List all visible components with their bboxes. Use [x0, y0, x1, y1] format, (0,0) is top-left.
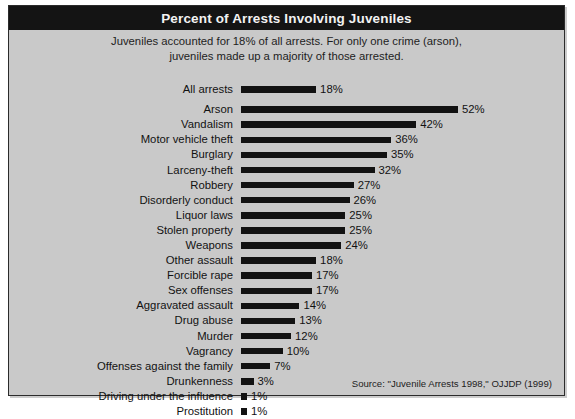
bar — [241, 303, 299, 310]
bar-track: 27% — [241, 178, 564, 193]
bar-row: Burglary35% — [9, 147, 564, 162]
bar-value-label: 18% — [320, 254, 343, 267]
bar — [241, 137, 391, 144]
bar-track: 18% — [241, 253, 564, 268]
bar-category-label: Liquor laws — [9, 209, 241, 222]
bar-category-label: Vagrancy — [9, 345, 241, 358]
bar-track: 1% — [241, 389, 564, 404]
bar-track: 42% — [241, 117, 564, 132]
bar-category-label: Disorderly conduct — [9, 194, 241, 207]
bar-row: Other assault18% — [9, 253, 564, 268]
bar — [241, 212, 345, 219]
bar-value-label: 1% — [251, 405, 267, 418]
bar-value-label: 25% — [349, 209, 372, 222]
bar-track: 17% — [241, 268, 564, 283]
bar-value-label: 10% — [287, 345, 310, 358]
bar-category-label: Robbery — [9, 179, 241, 192]
bar — [241, 333, 291, 340]
bar — [241, 257, 316, 264]
bar-value-label: 13% — [299, 314, 322, 327]
bar — [241, 167, 375, 174]
bar-value-label: 24% — [345, 239, 368, 252]
bar-chart-plot: All arrests18%Arson52%Vandalism42%Motor … — [9, 82, 564, 419]
bar-track: 10% — [241, 344, 564, 359]
bar-value-label: 35% — [391, 148, 414, 161]
bar — [241, 408, 247, 415]
bar-value-label: 7% — [274, 360, 290, 373]
bar-track: 25% — [241, 208, 564, 223]
bar-category-label: All arrests — [9, 83, 241, 96]
bar-row: Robbery27% — [9, 178, 564, 193]
bar-track: 12% — [241, 329, 564, 344]
chart-subtitle-line-1: Juveniles accounted for 18% of all arres… — [9, 34, 564, 49]
bar — [241, 288, 312, 295]
bar-category-label: Larceny-theft — [9, 164, 241, 177]
bar-category-label: Weapons — [9, 239, 241, 252]
bar — [241, 378, 254, 385]
bar-category-label: Other assault — [9, 254, 241, 267]
bar-category-label: Prostitution — [9, 405, 241, 418]
bar-value-label: 52% — [462, 103, 485, 116]
bar-value-label: 3% — [258, 375, 274, 388]
bar-row: Larceny-theft32% — [9, 162, 564, 177]
bar — [241, 182, 354, 189]
bar-row: Motor vehicle theft36% — [9, 132, 564, 147]
bar-track: 17% — [241, 283, 564, 298]
bar — [241, 363, 270, 370]
bar-category-label: Aggravated assault — [9, 299, 241, 312]
bar-track: 18% — [241, 82, 564, 97]
chart-subtitle: Juveniles accounted for 18% of all arres… — [9, 34, 564, 64]
bar-track: 32% — [241, 162, 564, 177]
bar-category-label: Vandalism — [9, 118, 241, 131]
bar-value-label: 18% — [320, 83, 343, 96]
bar-track: 7% — [241, 359, 564, 374]
bar-category-label: Drunkenness — [9, 375, 241, 388]
bar-track: 52% — [241, 102, 564, 117]
bar — [241, 86, 316, 93]
bar-row: Arson52% — [9, 102, 564, 117]
bar-row: Driving under the influence1% — [9, 389, 564, 404]
bar-category-label: Forcible rape — [9, 269, 241, 282]
bar-row: Drug abuse13% — [9, 313, 564, 328]
page-title: Percent of Arrests Involving Juveniles — [161, 11, 412, 26]
bar-category-label: Stolen property — [9, 224, 241, 237]
chart-title-bar: Percent of Arrests Involving Juveniles — [9, 6, 564, 30]
bar — [241, 152, 387, 159]
bar-value-label: 14% — [303, 299, 326, 312]
bar-category-label: Driving under the influence — [9, 390, 241, 403]
bar-track: 35% — [241, 147, 564, 162]
bar-row: Aggravated assault14% — [9, 298, 564, 313]
bar-row: Prostitution1% — [9, 404, 564, 419]
bar-value-label: 27% — [358, 179, 381, 192]
bar — [241, 393, 247, 400]
bar-track: 25% — [241, 223, 564, 238]
bar-value-label: 26% — [354, 194, 377, 207]
bar-value-label: 42% — [420, 118, 443, 131]
bar-row: Forcible rape17% — [9, 268, 564, 283]
bar — [241, 121, 416, 128]
bar-track: 26% — [241, 193, 564, 208]
bar-track: 24% — [241, 238, 564, 253]
bar-category-label: Murder — [9, 330, 241, 343]
bar-row: Sex offenses17% — [9, 283, 564, 298]
bar-track: 1% — [241, 404, 564, 419]
bar-track: 13% — [241, 313, 564, 328]
bar-row: Disorderly conduct26% — [9, 193, 564, 208]
bar-track: 36% — [241, 132, 564, 147]
bar-category-label: Sex offenses — [9, 284, 241, 297]
bar-value-label: 32% — [379, 164, 402, 177]
bar-row: Weapons24% — [9, 238, 564, 253]
bar-row: All arrests18% — [9, 82, 564, 97]
chart-panel: Percent of Arrests Involving Juveniles J… — [8, 5, 565, 396]
bar-value-label: 25% — [349, 224, 372, 237]
bar-value-label: 36% — [395, 133, 418, 146]
bar-category-label: Drug abuse — [9, 314, 241, 327]
bar — [241, 242, 341, 249]
bar-value-label: 1% — [251, 390, 267, 403]
chart-source-note: Source: "Juvenile Arrests 1998," OJJDP (… — [352, 378, 552, 389]
bar-row: Murder12% — [9, 329, 564, 344]
bar — [241, 318, 295, 325]
bar-row: Vagrancy10% — [9, 344, 564, 359]
bar — [241, 348, 283, 355]
bar — [241, 227, 345, 234]
